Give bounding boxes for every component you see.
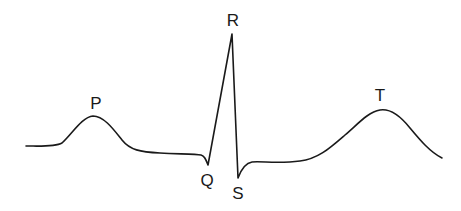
label-t: T xyxy=(375,86,385,105)
label-s: S xyxy=(232,184,243,203)
label-q: Q xyxy=(200,171,213,190)
ecg-waveform xyxy=(26,34,442,178)
ecg-diagram: P Q R S T xyxy=(0,0,461,211)
label-p: P xyxy=(90,94,101,113)
label-r: R xyxy=(227,11,239,30)
